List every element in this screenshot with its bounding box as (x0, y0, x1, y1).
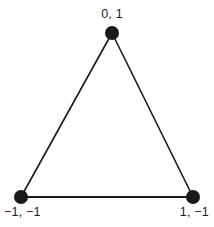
coordinate-triangle-figure: 0, 1 −1, −1 1, −1 (0, 0, 214, 227)
vertex-dot-bottom-right (186, 190, 200, 204)
vertex-dot-bottom-left (14, 190, 28, 204)
vertex-dot-top (105, 26, 119, 40)
vertex-label-bottom-left: −1, −1 (4, 206, 41, 219)
vertex-label-top: 0, 1 (101, 8, 123, 21)
vertex-label-bottom-right: 1, −1 (180, 206, 209, 219)
triangle-graphic (0, 0, 214, 227)
edge-top-to-bottom-right (112, 33, 193, 197)
edge-top-to-bottom-left (21, 33, 112, 197)
